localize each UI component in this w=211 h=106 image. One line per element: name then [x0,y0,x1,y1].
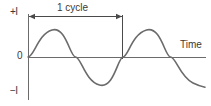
cycle-arrow-right-head [116,14,122,19]
y-axis-min-label: −I [10,86,18,96]
waveform-figure: +I 0 −I Time 1 cycle [0,0,211,106]
waveform-svg [0,0,211,106]
x-axis-label: Time [180,40,202,50]
sine-wave-curve [28,30,205,88]
cycle-arrow-left-head [29,14,35,19]
cycle-annotation-label: 1 cycle [57,3,88,13]
y-axis-zero-label: 0 [17,51,23,61]
y-axis-max-label: +I [10,7,18,17]
